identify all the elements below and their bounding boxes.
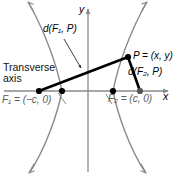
hyperbola-figure: Transverse axis d(F₁, P) d(F₂, P) P = (x…	[0, 0, 175, 175]
point-vertex-left	[59, 88, 65, 94]
left-branch-top-arrowhead	[28, 2, 33, 11]
left-branch-bottom-arrowhead	[29, 164, 34, 173]
leader-line-d-f1-p	[64, 39, 81, 68]
transverse-axis-label: Transverse axis	[3, 62, 55, 84]
focus-2-label: F₂ = (c, 0)	[108, 94, 152, 105]
point-p-label: P = (x, y)	[133, 51, 173, 62]
right-branch-top-arrowhead	[142, 2, 147, 11]
hyperbola-right-branch	[113, 2, 147, 173]
figure-canvas	[0, 0, 175, 175]
right-branch-curve	[113, 3, 146, 172]
point-p	[125, 54, 131, 60]
y-axis-label: y	[79, 4, 84, 15]
transverse-axis-label-line2: axis	[3, 73, 55, 84]
focus-1-label: F₁ = (−c, 0)	[2, 95, 51, 106]
x-axis-label: x	[163, 91, 168, 102]
distance-f2-p-label: d(F₂, P)	[128, 67, 162, 78]
distance-f1-p-label: d(F₁, P)	[43, 24, 77, 35]
right-branch-bottom-arrowhead	[141, 164, 146, 173]
